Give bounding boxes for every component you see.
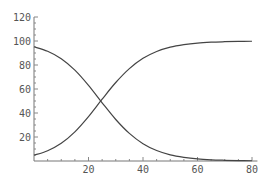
y-tick-label: 20 [19,132,31,143]
y-tick-label: 60 [19,84,31,95]
line-chart: 2040608020406080100120 [0,0,268,183]
tick-labels: 2040608020406080100120 [13,12,258,176]
y-tick-label: 40 [19,108,31,119]
x-tick-label: 80 [246,164,258,175]
x-tick-label: 20 [82,164,94,175]
x-tick-label: 60 [191,164,203,175]
y-tick-label: 100 [13,36,31,47]
axes [34,17,257,161]
curve-rising [34,41,252,155]
x-tick-label: 40 [137,164,149,175]
curves [34,41,252,161]
y-tick-label: 120 [13,12,31,23]
y-tick-label: 80 [19,60,31,71]
curve-falling [34,47,252,161]
